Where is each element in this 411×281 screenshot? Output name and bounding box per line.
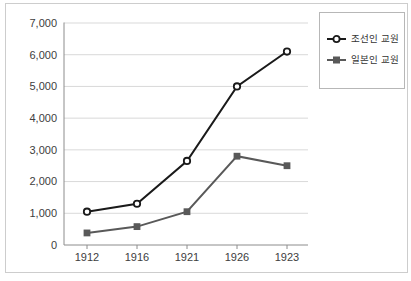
- svg-text:1916: 1916: [125, 251, 149, 263]
- svg-text:0: 0: [51, 239, 57, 251]
- open-circle-marker-icon: [327, 34, 346, 44]
- legend-label: 조선인 교원: [351, 34, 399, 44]
- svg-text:4,000: 4,000: [29, 112, 57, 124]
- legend-item-joseon-teachers: 조선인 교원: [320, 29, 404, 49]
- chart-figure: 01,0002,0003,0004,0005,0006,0007,0001912…: [0, 0, 411, 281]
- svg-text:1923: 1923: [275, 251, 299, 263]
- svg-text:2,000: 2,000: [29, 175, 57, 187]
- svg-text:1912: 1912: [75, 251, 99, 263]
- svg-text:5,000: 5,000: [29, 80, 57, 92]
- svg-text:7,000: 7,000: [29, 17, 57, 29]
- svg-text:1,000: 1,000: [29, 207, 57, 219]
- filled-square-marker-icon: [327, 55, 346, 65]
- svg-text:1926: 1926: [225, 251, 249, 263]
- svg-text:1921: 1921: [175, 251, 199, 263]
- legend-item-japanese-teachers: 일본인 교원: [320, 50, 404, 70]
- legend-label: 일본인 교원: [351, 55, 399, 65]
- legend-box: 조선인 교원 일본인 교원: [319, 12, 405, 89]
- svg-text:3,000: 3,000: [29, 144, 57, 156]
- svg-text:6,000: 6,000: [29, 49, 57, 61]
